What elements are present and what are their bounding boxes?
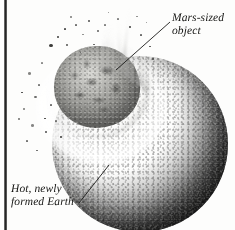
page-edge-bar <box>4 0 7 230</box>
annotation-earth-line-1: Hot, newly <box>11 183 74 196</box>
debris-speck <box>70 16 72 18</box>
debris-speck <box>28 72 31 75</box>
debris-speck <box>149 46 151 47</box>
debris-speck <box>23 108 25 110</box>
debris-speck <box>104 24 106 26</box>
impactor-sphere <box>54 46 140 128</box>
debris-speck <box>140 34 142 36</box>
debris-speck <box>108 12 109 13</box>
impactor-surface-texture <box>54 46 140 128</box>
debris-speck <box>66 44 68 46</box>
debris-speck <box>18 118 20 120</box>
giant-impact-illustration: Mars-sized object Hot, newly formed Eart… <box>0 0 235 230</box>
annotation-earth-line-2: formed Earth <box>11 196 74 209</box>
debris-speck <box>136 16 138 17</box>
annotation-mars-line-2: object <box>172 25 224 38</box>
annotation-mars-line-1: Mars-sized <box>172 12 224 25</box>
debris-speck <box>31 124 34 127</box>
debris-speck <box>146 22 147 23</box>
debris-speck <box>97 30 99 32</box>
annotation-mars-sized-object: Mars-sized object <box>172 12 224 38</box>
debris-speck <box>129 26 131 28</box>
debris-speck <box>57 36 59 38</box>
debris-speck <box>49 44 53 47</box>
debris-speck <box>117 18 119 20</box>
debris-speck <box>21 92 23 93</box>
debris-speck <box>26 140 28 142</box>
debris-speck <box>36 150 38 151</box>
debris-speck <box>75 24 77 26</box>
debris-speck <box>82 34 84 35</box>
debris-speck <box>64 28 66 30</box>
annotation-hot-newly-formed-earth: Hot, newly formed Earth <box>11 183 74 209</box>
debris-speck <box>41 62 43 64</box>
debris-speck <box>88 20 90 22</box>
debris-speck <box>38 84 40 86</box>
